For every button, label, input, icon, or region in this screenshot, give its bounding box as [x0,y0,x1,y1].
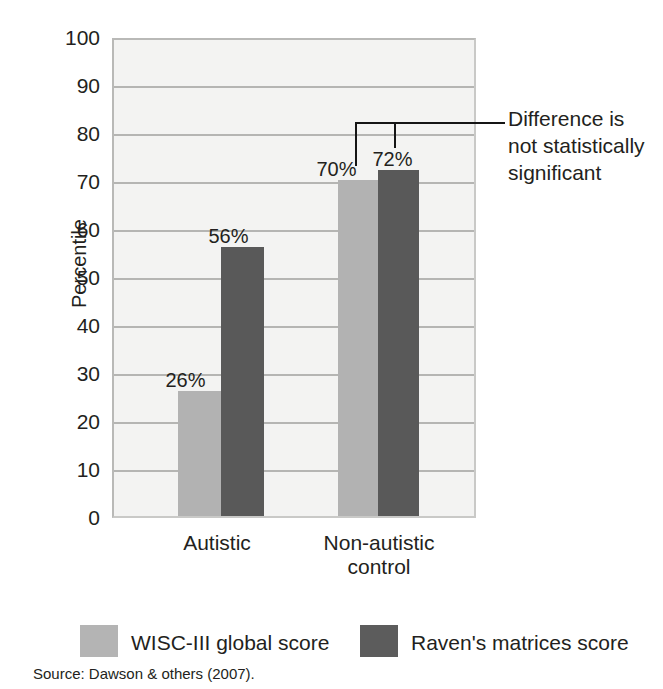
category-label-control: Non-autistic control [303,531,455,578]
bar-value-control-wisc: 70% [306,159,367,179]
gridline-20 [114,422,474,424]
gridline-70 [114,182,474,184]
bar-autistic-ravens [221,247,264,516]
gridline-40 [114,326,474,328]
legend-label-wisc: WISC-III global score [131,632,329,653]
bar-value-control-ravens: 72% [362,149,423,169]
bar-autistic-wisc [178,391,221,516]
gridline-90 [114,86,474,88]
plot-area [112,38,476,518]
legend-swatch-ravens [360,625,398,657]
y-axis-title: Percentile [68,199,91,329]
bar-value-autistic-wisc: 26% [155,370,216,390]
gridline-50 [114,278,474,280]
bar-chart-figure: 100 90 80 70 60 50 40 30 20 10 0 Percent… [0,0,663,689]
y-tick-0: 0 [40,507,100,528]
y-tick-90: 90 [40,75,100,96]
annotation-leader-left [355,122,357,166]
y-tick-30: 30 [40,363,100,384]
legend-swatch-wisc [80,625,118,657]
bar-control-wisc [338,180,378,516]
source-note: Source: Dawson & others (2007). [33,665,255,682]
annotation-bracket-top [355,122,505,124]
y-tick-20: 20 [40,411,100,432]
bar-value-autistic-ravens: 56% [198,226,259,246]
category-label-autistic: Autistic [157,531,277,555]
annotation-text: Difference is not statistically signific… [508,106,660,187]
annotation-leader-right [394,122,396,148]
y-tick-80: 80 [40,123,100,144]
y-tick-70: 70 [40,171,100,192]
bar-control-ravens [378,170,419,516]
y-tick-100: 100 [40,27,100,48]
legend-label-ravens: Raven's matrices score [411,632,629,653]
gridline-60 [114,230,474,232]
y-tick-10: 10 [40,459,100,480]
gridline-10 [114,470,474,472]
gridline-80 [114,134,474,136]
